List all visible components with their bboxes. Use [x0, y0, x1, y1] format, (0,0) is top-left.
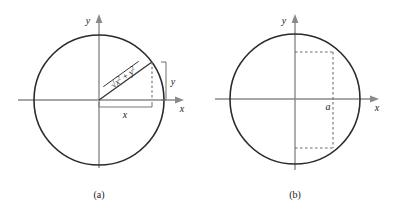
- panel-a-x-axis-label: x: [179, 103, 185, 114]
- panel-a-group: √x2 + y2 y x x y (a): [18, 14, 185, 201]
- panel-b-caption: (b): [289, 189, 301, 201]
- panel-b-y-axis-arrowhead: [292, 14, 299, 23]
- panel-a-radius-expression: √x2 + y2: [108, 64, 138, 90]
- panel-b-group: y x a (b): [215, 14, 380, 201]
- panel-a-radius-expression-group: √x2 + y2: [102, 60, 144, 94]
- figure-canvas: √x2 + y2 y x x y (a): [0, 0, 396, 209]
- panel-a-y-axis-arrowhead: [96, 14, 103, 23]
- figure-container: √x2 + y2 y x x y (a): [0, 0, 396, 209]
- panel-a-y-axis-label: y: [85, 15, 91, 26]
- panel-b-y-axis-label: y: [281, 15, 287, 26]
- panel-b-x-axis-label: x: [374, 102, 380, 113]
- panel-a-x-bracket-label: x: [122, 109, 128, 120]
- panel-a-caption: (a): [93, 189, 104, 201]
- panel-b-chord-label: a: [326, 101, 331, 112]
- panel-a-x-bracket: [99, 102, 152, 107]
- panel-a-y-bracket-label: y: [170, 76, 176, 87]
